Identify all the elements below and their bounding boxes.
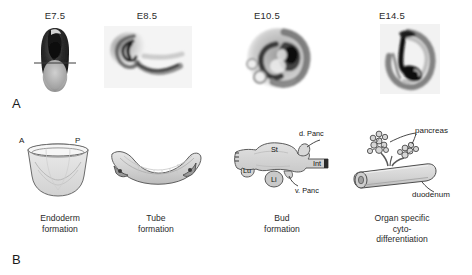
caption-line-2: formation: [222, 224, 342, 235]
intestine-label: Int: [313, 159, 321, 168]
schematic-cytodifferentiation: [348, 128, 458, 198]
micrograph-e10-5: [238, 22, 316, 96]
caption-tube-formation: Tube formation: [96, 213, 216, 234]
dorsal-pancreas-label: d. Panc: [299, 129, 324, 138]
caption-cytodifferentiation: Organ specific cyto- differentiation: [342, 213, 462, 245]
caption-line-2: cyto-: [342, 224, 462, 235]
stomach-label: St: [271, 145, 278, 154]
anterior-label: A: [19, 136, 24, 145]
stage-label-e10-5: E10.5: [237, 10, 297, 21]
liver-label: Li: [271, 175, 277, 184]
caption-line-3: differentiation: [342, 234, 462, 245]
panel-letter-b: B: [12, 252, 21, 267]
pancreas-label: pancreas: [415, 126, 448, 135]
lung-label: Lu: [243, 166, 251, 175]
duodenum-label: duodenum: [412, 190, 450, 199]
caption-line-1: Organ specific: [342, 213, 462, 224]
figure-root: E7.5 E8.5 E10.5 E14.5: [0, 0, 472, 275]
micrograph-e14-5: [380, 24, 440, 94]
schematic-endoderm-formation: [22, 140, 94, 200]
stage-label-e14-5: E14.5: [362, 10, 422, 21]
caption-line-1: Bud: [222, 213, 342, 224]
caption-line-2: formation: [96, 224, 216, 235]
micrograph-e8-5: [104, 26, 192, 88]
stage-label-e8-5: E8.5: [117, 10, 177, 21]
stage-label-e7-5: E7.5: [25, 10, 85, 21]
posterior-label: P: [75, 136, 80, 145]
caption-bud-formation: Bud formation: [222, 213, 342, 234]
micrograph-e7-5: [34, 24, 76, 96]
caption-line-1: Tube: [96, 213, 216, 224]
schematic-tube-formation: [108, 146, 204, 188]
ventral-pancreas-label: v. Panc: [295, 186, 319, 195]
panel-letter-a: A: [12, 96, 21, 111]
